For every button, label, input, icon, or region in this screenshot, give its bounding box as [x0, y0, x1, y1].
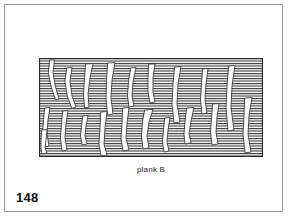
figure-caption: plank B: [39, 165, 263, 174]
plank-b-figure: [39, 58, 263, 157]
crack-18: [41, 130, 47, 155]
page-number: 148: [16, 190, 39, 205]
page-frame-border: plank B 148: [4, 4, 283, 212]
plank-b-diagram: [39, 58, 263, 157]
book-page: plank B 148: [0, 0, 289, 218]
